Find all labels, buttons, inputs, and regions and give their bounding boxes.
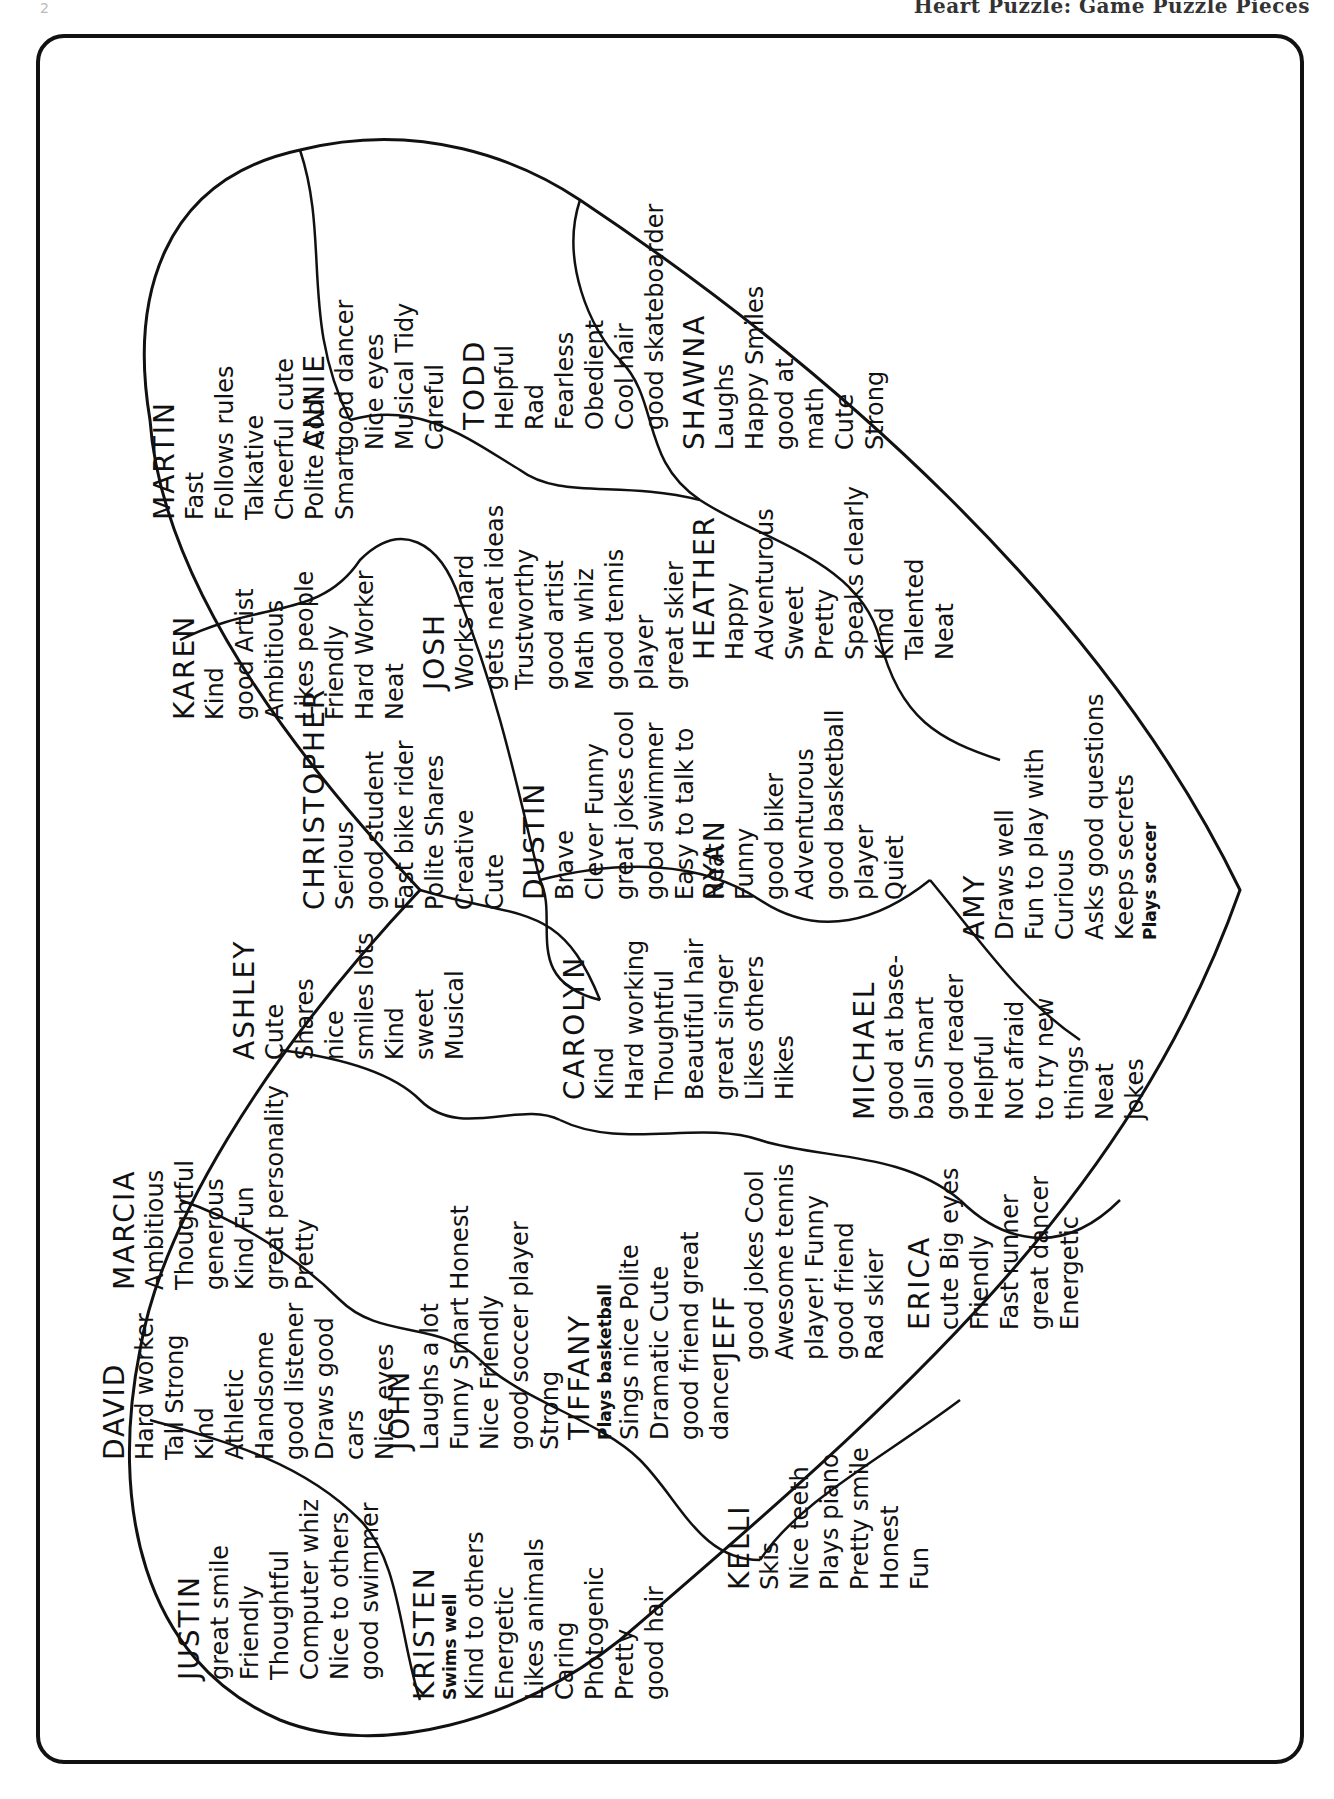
puzzle-piece-michael: MICHAEL good at base- ball Smart good re… <box>850 955 1150 1120</box>
puzzle-piece-ashley: ASHLEY Cute Shares nice smiles lots Kind… <box>230 933 470 1060</box>
puzzle-piece-christopher: CHRISTOPHER Serious good student Fast bi… <box>300 688 510 910</box>
piece-name: MARTIN <box>150 358 180 520</box>
puzzle-piece-justin: JUSTIN great smile Friendly Thoughtful C… <box>175 1499 385 1680</box>
puzzle-piece-jeff: JEFF good jokes Cool Awesome tennis play… <box>710 1163 890 1360</box>
puzzle-piece-carolyn: CAROLYN Kind Hard working Thoughtful Bea… <box>560 938 800 1100</box>
puzzle-piece-kelli: KELLI Skis Nice teeth Plays piano Pretty… <box>725 1447 935 1590</box>
puzzle-piece-erica: ERICA cute Big eyes Friendly Fast runner… <box>905 1168 1085 1330</box>
puzzle-piece-heather: HEATHER Happy Adventurous Sweet Pretty S… <box>690 486 960 660</box>
puzzle-piece-josh: JOSH Works hard gets neat ideas Trustwor… <box>420 505 690 690</box>
puzzle-piece-annie: ANNIE good dancer Nice eyes Musical Tidy… <box>300 300 450 450</box>
puzzle-piece-david: DAVID Hard worker Tall Strong Kind Athle… <box>100 1303 400 1460</box>
puzzle-piece-amy: AMY Draws well Fun to play with Curious … <box>960 693 1160 940</box>
puzzle-piece-ryan: RYAN Funny good biker Adventurous good b… <box>700 710 910 900</box>
puzzle-piece-john: JOHN Laughs a lot Funny Smart Honest Nic… <box>385 1205 565 1450</box>
puzzle-piece-marcia: MARCIA Ambitious Thoughtful generous Kin… <box>110 1085 320 1290</box>
puzzle-piece-kristen: KRISTEN Swims well Kind to others Energe… <box>410 1531 670 1700</box>
puzzle-piece-todd: TODD Helpful Rad Fearless Obedient Cool … <box>460 204 670 430</box>
puzzle-piece-shawna: SHAWNA Laughs Happy Smiles good at math … <box>680 286 890 450</box>
